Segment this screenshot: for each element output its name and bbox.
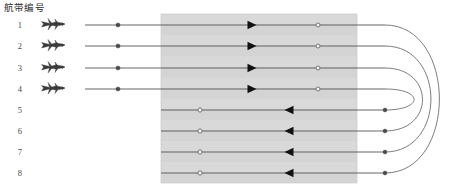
strip-turn-dot-1: [316, 23, 320, 27]
strip-label-7: 7: [4, 147, 22, 157]
strip-start-dot-1: [116, 23, 120, 27]
turn-curve-4-5: [385, 89, 414, 110]
turn-curves-group: [385, 25, 439, 173]
airplane-icon: [40, 60, 66, 75]
strip-turn-dot-3: [316, 66, 320, 70]
survey-area-band: [161, 130, 357, 141]
survey-area-band: [161, 172, 357, 183]
strip-label-4: 4: [4, 84, 22, 94]
strip-start-dot-8: [198, 171, 202, 175]
flight-strip-diagram: 航带编号 12345678: [0, 0, 451, 196]
survey-area-band: [161, 88, 357, 99]
strip-start-dot-4: [116, 87, 120, 91]
turn-curve-3-6: [385, 68, 423, 131]
survey-area-group: [161, 14, 357, 183]
strip-turn-dot-4: [316, 87, 320, 91]
strip-start-dot-2: [116, 44, 120, 48]
strip-label-1: 1: [4, 20, 22, 30]
diagram-vector-layer: [0, 0, 451, 196]
strip-label-6: 6: [4, 126, 22, 136]
strip-start-dot-7: [198, 150, 202, 154]
strip-turn-dot-6: [383, 129, 387, 133]
airplane-icon: [40, 17, 66, 32]
survey-area-band: [161, 109, 357, 120]
strip-turn-dot-2: [316, 44, 320, 48]
strip-start-dot-5: [198, 108, 202, 112]
survey-area-band: [161, 25, 357, 36]
strip-turn-dot-7: [383, 150, 387, 154]
strip-label-8: 8: [4, 168, 22, 178]
strip-label-3: 3: [4, 63, 22, 73]
survey-area-band: [161, 151, 357, 162]
strip-start-dot-6: [198, 129, 202, 133]
strip-label-5: 5: [4, 105, 22, 115]
airplane-icon: [40, 81, 66, 96]
strip-turn-dot-8: [383, 171, 387, 175]
strip-turn-dot-5: [383, 108, 387, 112]
airplane-icon: [40, 38, 66, 53]
strip-start-dot-3: [116, 66, 120, 70]
survey-area-band: [161, 46, 357, 57]
strip-label-2: 2: [4, 41, 22, 51]
turn-curve-2-7: [385, 46, 431, 152]
